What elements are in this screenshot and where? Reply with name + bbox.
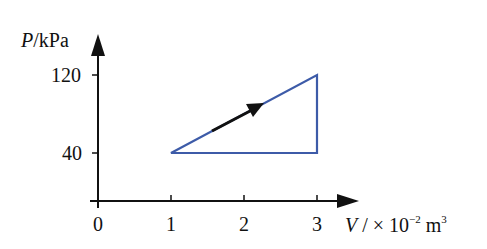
direction-arrow-shaft	[212, 110, 252, 131]
x-axis-unit-base: m	[421, 214, 442, 236]
y-tick-label-40: 40	[62, 143, 82, 163]
x-axis-label: V / × 10−2 m3	[345, 214, 447, 235]
pv-diagram	[0, 0, 487, 249]
x-tick-label-0: 0	[93, 214, 103, 234]
y-axis-unit: /kPa	[33, 29, 69, 51]
x-axis-arrow-icon	[337, 194, 359, 208]
x-axis-symbol: V	[345, 214, 357, 236]
y-axis-arrow-icon	[91, 34, 105, 56]
x-axis-unit-exponent: −2	[409, 213, 421, 225]
y-tick-label-120: 120	[51, 65, 81, 85]
x-tick-label-2: 2	[239, 214, 249, 234]
x-axis-unit-prefix: / × 10	[357, 214, 409, 236]
direction-arrow-icon	[246, 103, 264, 117]
y-axis-label: P/kPa	[21, 30, 69, 50]
x-tick-label-3: 3	[312, 214, 322, 234]
y-axis-symbol: P	[21, 29, 33, 51]
x-axis-unit-base-exponent: 3	[441, 213, 447, 225]
x-tick-label-1: 1	[166, 214, 176, 234]
